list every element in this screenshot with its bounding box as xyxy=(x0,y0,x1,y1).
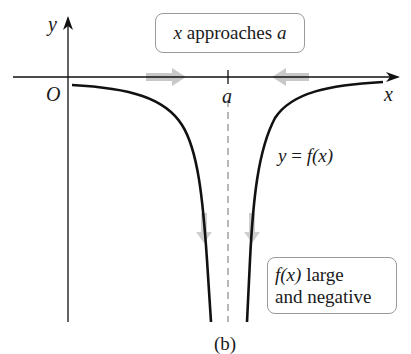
curve-left-branch xyxy=(72,85,211,322)
approach-text: approaches xyxy=(187,22,272,44)
curve-label-eq: = xyxy=(291,145,302,166)
behavior-line1-text: large xyxy=(306,264,344,285)
curve-label: y = f(x) xyxy=(278,146,333,165)
y-axis-label: y xyxy=(48,14,57,34)
tick-a-label: a xyxy=(222,86,232,106)
approach-var: x xyxy=(174,22,182,44)
approach-callout: x approaches a xyxy=(155,13,305,53)
behavior-fn: f(x) xyxy=(275,264,301,285)
origin-label: O xyxy=(46,84,60,104)
curve-label-rhs: f(x) xyxy=(307,145,333,166)
behavior-line-1: f(x) large xyxy=(275,264,396,286)
x-axis-label: x xyxy=(384,84,393,104)
behavior-line-2: and negative xyxy=(275,286,396,308)
figure-caption: (b) xyxy=(214,334,236,353)
approach-target: a xyxy=(277,22,287,44)
behavior-callout: f(x) large and negative xyxy=(267,257,397,314)
curve-label-lhs: y xyxy=(278,145,286,166)
